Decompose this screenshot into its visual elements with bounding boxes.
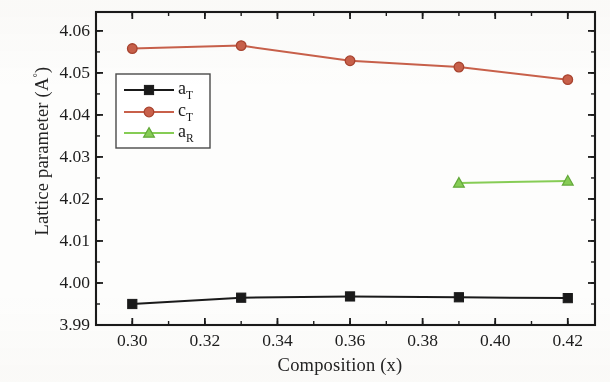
- data-point: [454, 293, 463, 302]
- data-point: [345, 292, 354, 301]
- legend-box: [116, 74, 210, 148]
- data-point: [127, 44, 137, 54]
- plot-area: [0, 0, 610, 382]
- data-point: [454, 62, 464, 72]
- series-a_R: [454, 175, 574, 187]
- lattice-parameter-chart: Lattice parameter (A°) Composition (x) 3…: [0, 0, 610, 382]
- data-point: [236, 41, 246, 51]
- data-point: [563, 75, 573, 85]
- data-point: [144, 85, 153, 94]
- data-point: [128, 299, 137, 308]
- data-point: [144, 107, 154, 117]
- data-point: [237, 293, 246, 302]
- series-a_T: [128, 292, 573, 309]
- data-point: [345, 56, 355, 66]
- data-point: [563, 294, 572, 303]
